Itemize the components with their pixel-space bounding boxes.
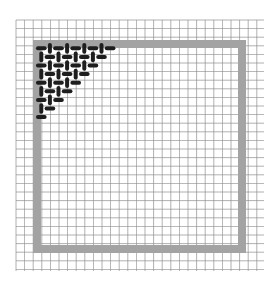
grid-artwork	[0, 0, 278, 289]
woven-grid-illustration	[0, 0, 278, 289]
